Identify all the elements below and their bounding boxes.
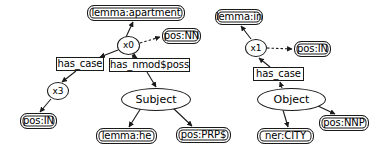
node-label-r-x1: x1 bbox=[250, 44, 261, 53]
node-r-pos-in[interactable]: pos:IN bbox=[294, 41, 331, 57]
node-label-r-lemma-in: lemma:in bbox=[216, 12, 262, 22]
node-label-r-pos-nnp: pos:NNP bbox=[323, 118, 364, 128]
node-r-lemma-in[interactable]: lemma:in bbox=[215, 9, 263, 25]
node-r-x1[interactable]: x1 bbox=[245, 39, 267, 57]
graph-in-object-graph: lemma:inx1pos:INhas_caseObjectner:CITYpo… bbox=[0, 0, 382, 152]
node-r-object[interactable]: Object bbox=[257, 88, 326, 111]
node-r-has-case[interactable]: has_case bbox=[253, 67, 304, 81]
diagram-canvas: lemma:apartmentx0pos:NNhas_casehas_nmod$… bbox=[0, 0, 382, 152]
node-label-r-object: Object bbox=[274, 94, 310, 105]
node-label-r-ner-city: ner:CITY bbox=[265, 131, 306, 141]
node-r-pos-nnp[interactable]: pos:NNP bbox=[319, 115, 369, 131]
node-label-r-has-case: has_case bbox=[256, 69, 301, 79]
node-r-ner-city[interactable]: ner:CITY bbox=[257, 128, 314, 144]
node-label-r-pos-in: pos:IN bbox=[297, 44, 328, 54]
